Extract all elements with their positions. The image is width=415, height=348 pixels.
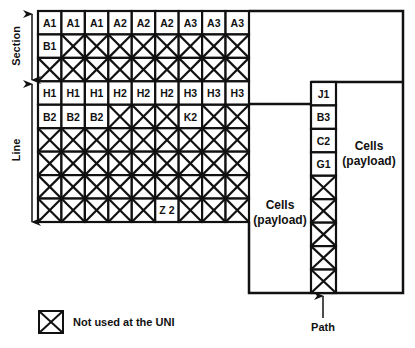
grid-cell — [179, 199, 202, 222]
legend: Not used at the UNI — [39, 311, 174, 333]
path-cell — [311, 199, 336, 222]
grid-cell: A1 — [61, 11, 84, 34]
grid-cell — [108, 58, 131, 81]
grid-cell — [38, 58, 61, 81]
grid-cell — [132, 175, 155, 198]
cell-label: J1 — [318, 88, 330, 100]
grid-cell — [85, 128, 108, 151]
grid-cell — [226, 128, 249, 151]
grid-cell — [179, 152, 202, 175]
cell-label: Z 2 — [159, 204, 174, 216]
path-cell: J1 — [311, 82, 336, 105]
cell-label: A3 — [184, 17, 198, 29]
grid-cell — [132, 152, 155, 175]
grid-cell — [85, 58, 108, 81]
grid-cell: Z 2 — [155, 199, 178, 222]
path-cell: C2 — [311, 129, 336, 152]
grid-cell: A3 — [202, 11, 225, 34]
grid-cell — [132, 105, 155, 128]
cell-label: A2 — [113, 17, 127, 29]
grid-cell: H2 — [132, 81, 155, 104]
cell-label: H2 — [160, 87, 174, 99]
cell-label: B3 — [317, 111, 331, 123]
path-cell — [311, 176, 336, 199]
cell-label: H1 — [43, 87, 57, 99]
grid-cell — [38, 199, 61, 222]
grid-cell — [85, 199, 108, 222]
grid-cell — [226, 105, 249, 128]
grid-cell — [108, 128, 131, 151]
grid-cell — [61, 175, 84, 198]
grid-cell — [108, 34, 131, 57]
grid-cell — [179, 58, 202, 81]
cell-label: H3 — [184, 87, 198, 99]
legend-label: Not used at the UNI — [73, 316, 174, 328]
grid-cell — [61, 128, 84, 151]
grid-cell: A2 — [132, 11, 155, 34]
grid-cell — [226, 199, 249, 222]
payload-right-line1: Cells — [355, 139, 384, 153]
grid-cell: B2 — [85, 105, 108, 128]
grid-cell — [38, 152, 61, 175]
grid-cell: A1 — [38, 11, 61, 34]
cell-label: A2 — [137, 17, 151, 29]
grid-cell — [132, 34, 155, 57]
payload-left-line1: Cells — [266, 198, 295, 212]
grid-cell: H2 — [155, 81, 178, 104]
cell-label: H3 — [207, 87, 221, 99]
cell-label: H2 — [137, 87, 151, 99]
grid-cell — [132, 128, 155, 151]
grid-cell: H3 — [202, 81, 225, 104]
cell-label: B2 — [43, 111, 57, 123]
grid-cell: H1 — [85, 81, 108, 104]
path-cell — [311, 270, 336, 293]
grid-cell: K2 — [179, 105, 202, 128]
grid-cell — [202, 58, 225, 81]
grid-cell — [202, 152, 225, 175]
grid-cell — [226, 152, 249, 175]
grid-cell: H3 — [226, 81, 249, 104]
grid-cell — [108, 175, 131, 198]
grid-cell — [61, 199, 84, 222]
grid-cell — [38, 175, 61, 198]
cell-label: A1 — [66, 17, 80, 29]
grid-cell — [38, 128, 61, 151]
grid-cell — [155, 128, 178, 151]
grid-cell: H2 — [108, 81, 131, 104]
grid-cell: B1 — [38, 34, 61, 57]
grid-cell — [202, 199, 225, 222]
grid-cell — [61, 58, 84, 81]
grid-cell: H3 — [179, 81, 202, 104]
grid-cell — [85, 34, 108, 57]
grid-cell — [226, 175, 249, 198]
grid-cell — [155, 105, 178, 128]
cell-label: G1 — [316, 158, 330, 170]
grid-cell: B2 — [61, 105, 84, 128]
cell-label: B2 — [66, 111, 80, 123]
grid-cell — [61, 34, 84, 57]
grid-cell — [155, 175, 178, 198]
path-overhead-column: J1B3C2G1 — [311, 82, 336, 293]
grid-cell — [155, 58, 178, 81]
grid-cell — [179, 175, 202, 198]
overhead-grid: A1A1A1A2A2A2A3A3A3B1H1H1H1H2H2H2H3H3H3B2… — [38, 11, 249, 222]
grid-cell — [108, 152, 131, 175]
grid-cell — [155, 34, 178, 57]
grid-cell: A2 — [155, 11, 178, 34]
cell-label: H1 — [66, 87, 80, 99]
grid-cell: A3 — [226, 11, 249, 34]
line-label: Line — [10, 139, 22, 162]
grid-cell — [132, 58, 155, 81]
path-cell — [311, 246, 336, 269]
cell-label: A3 — [207, 17, 221, 29]
cell-label: A1 — [43, 17, 57, 29]
grid-cell: A3 — [179, 11, 202, 34]
grid-cell — [226, 34, 249, 57]
grid-cell — [85, 152, 108, 175]
grid-cell — [202, 175, 225, 198]
cell-label: H3 — [231, 87, 245, 99]
cell-label: C2 — [317, 135, 331, 147]
grid-cell: H1 — [38, 81, 61, 104]
grid-cell — [155, 152, 178, 175]
path-label: Path — [311, 321, 335, 333]
